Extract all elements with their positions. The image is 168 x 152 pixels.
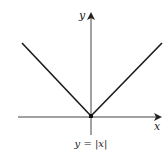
abs-value-graph: y x y = |x| xyxy=(0,0,168,152)
left-branch xyxy=(22,43,91,116)
x-axis-label: x xyxy=(154,120,161,133)
origin-dot xyxy=(89,114,93,118)
right-branch xyxy=(91,43,162,116)
y-axis-label: y xyxy=(78,9,86,22)
function-label: y = |x| xyxy=(74,138,108,150)
